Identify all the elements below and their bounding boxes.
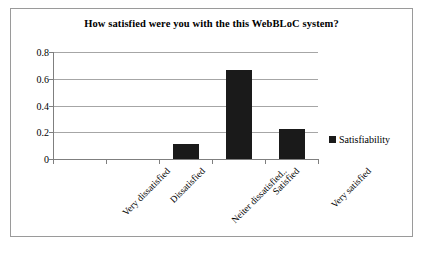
y-axis-tick-label: 0 bbox=[15, 154, 49, 165]
y-axis-tick-labels: 00.20.40.60.8 bbox=[11, 52, 49, 159]
y-axis-tick-mark bbox=[49, 106, 54, 107]
x-axis-category-label: Very dissatisfied bbox=[120, 166, 172, 218]
bar[interactable] bbox=[279, 129, 305, 159]
chart-legend: Satisfiability bbox=[329, 134, 390, 145]
bar-slot bbox=[265, 52, 318, 159]
y-axis-tick-label: 0.2 bbox=[15, 127, 49, 138]
legend-label: Satisfiability bbox=[339, 134, 390, 145]
x-axis-category-label: Dissatisfied bbox=[168, 166, 207, 205]
chart-title: How satisfied were you with the this Web… bbox=[11, 18, 412, 29]
y-axis-tick-mark bbox=[49, 159, 54, 160]
x-axis-tick-mark bbox=[265, 159, 266, 164]
y-axis-tick-label: 0.4 bbox=[15, 100, 49, 111]
bar-slot bbox=[106, 52, 159, 159]
x-axis-category-label: Very satisfied bbox=[329, 166, 373, 210]
x-axis-tick-mark bbox=[318, 159, 319, 164]
x-axis-tick-mark bbox=[159, 159, 160, 164]
bar-slot bbox=[53, 52, 106, 159]
chart-frame: How satisfied were you with the this Web… bbox=[10, 8, 413, 237]
x-axis-tick-mark bbox=[212, 159, 213, 164]
x-axis-category-label: Neiter dissatisfied.. bbox=[230, 166, 289, 225]
bar-slot bbox=[159, 52, 212, 159]
bar-slot bbox=[212, 52, 265, 159]
y-axis-tick-mark bbox=[49, 79, 54, 80]
y-axis-tick-label: 0.8 bbox=[15, 47, 49, 58]
x-axis-tick-mark bbox=[106, 159, 107, 164]
y-axis-tick-mark bbox=[49, 52, 54, 53]
gridline-0 bbox=[53, 159, 318, 160]
bars-layer bbox=[53, 52, 318, 159]
y-axis-tick-label: 0.6 bbox=[15, 73, 49, 84]
legend-swatch-icon bbox=[329, 136, 336, 143]
y-axis-tick-mark bbox=[49, 132, 54, 133]
bar[interactable] bbox=[173, 144, 199, 159]
bar[interactable] bbox=[226, 70, 252, 159]
